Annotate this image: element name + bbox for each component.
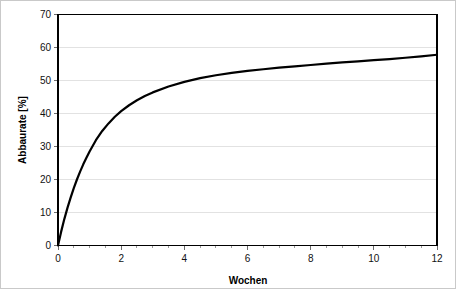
- x-tick-label: 10: [368, 253, 380, 264]
- plot-frame: [58, 15, 437, 246]
- x-tick-label: 8: [308, 253, 314, 264]
- x-tick-label: 0: [55, 253, 61, 264]
- x-tick-label: 12: [431, 253, 443, 264]
- y-tick-group: 010203040506070: [40, 9, 58, 251]
- data-curve-abbaurate: [58, 55, 437, 246]
- gridlines-group: [58, 48, 437, 213]
- x-axis-title: Wochen: [229, 275, 268, 286]
- x-tick-label: 6: [245, 253, 251, 264]
- x-tick-label: 2: [118, 253, 124, 264]
- y-tick-label: 50: [40, 75, 52, 86]
- y-tick-label: 40: [40, 108, 52, 119]
- plot-area: 010203040506070 024681012 Wochen Abbaura…: [1, 1, 456, 289]
- x-tick-group: 024681012: [55, 246, 443, 264]
- chart-figure: 010203040506070 024681012 Wochen Abbaura…: [0, 0, 456, 289]
- x-tick-label: 4: [182, 253, 188, 264]
- y-tick-label: 70: [40, 9, 52, 20]
- y-axis-title: Abbaurate [%]: [17, 96, 28, 164]
- y-tick-label: 20: [40, 174, 52, 185]
- y-tick-label: 0: [45, 240, 51, 251]
- y-tick-label: 60: [40, 42, 52, 53]
- y-tick-label: 30: [40, 141, 52, 152]
- y-tick-label: 10: [40, 207, 52, 218]
